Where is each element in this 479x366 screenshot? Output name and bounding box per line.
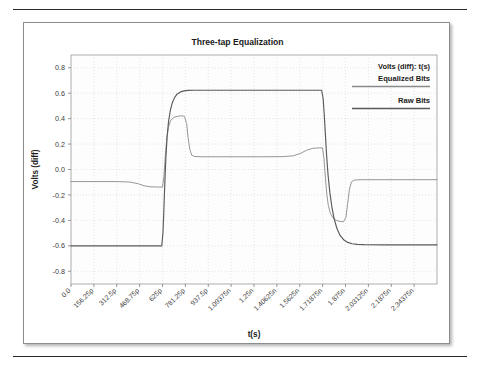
y-tick-label: 0.8 bbox=[55, 63, 65, 72]
x-tick-label: 2.34375n bbox=[390, 287, 415, 312]
x-tick-label: 312.5p bbox=[98, 287, 119, 308]
x-tick-label: 1.875n bbox=[326, 287, 346, 307]
x-tick-label: 0.0 bbox=[60, 287, 72, 299]
x-tick-label: 156.25p bbox=[72, 287, 95, 310]
y-tick-label: 0.2 bbox=[55, 140, 65, 149]
x-tick-label: 2.03125n bbox=[344, 287, 369, 312]
chart-canvas: Three-tap Equalization0.80.60.40.20.0-0.… bbox=[24, 23, 451, 345]
y-tick-label: -0.2 bbox=[53, 191, 65, 200]
y-tick-label: -0.4 bbox=[53, 216, 65, 225]
figure-card: Three-tap Equalization0.80.60.40.20.0-0.… bbox=[23, 22, 450, 344]
top-horizontal-rule bbox=[13, 9, 467, 10]
x-tick-label: 1.5625n bbox=[278, 287, 301, 310]
y-tick-label: -0.8 bbox=[53, 267, 65, 276]
x-tick-label: 2.1875n bbox=[369, 287, 392, 310]
legend-header: Volts (diff): t(s) bbox=[378, 62, 431, 71]
figure-page: Three-tap Equalization0.80.60.40.20.0-0.… bbox=[0, 0, 479, 366]
legend-label-equalized-bits: Equalized Bits bbox=[378, 74, 430, 83]
y-tick-label: 0.4 bbox=[55, 114, 65, 123]
x-tick-label: 625p bbox=[147, 287, 164, 304]
legend-label-raw-bits: Raw Bits bbox=[398, 96, 430, 105]
x-tick-label: 781.25p bbox=[164, 287, 187, 310]
y-tick-label: 0.0 bbox=[55, 165, 65, 174]
x-axis-title: t(s) bbox=[248, 330, 261, 339]
y-axis-title: Volts (diff) bbox=[31, 149, 40, 189]
x-tick-label: 937.5p bbox=[189, 287, 210, 308]
x-tick-label: 1.71875n bbox=[298, 287, 323, 312]
x-tick-label: 1.09375n bbox=[207, 287, 232, 312]
x-tick-label: 468.75p bbox=[118, 287, 141, 310]
y-tick-label: -0.6 bbox=[53, 241, 65, 250]
bottom-horizontal-rule bbox=[13, 356, 467, 357]
x-tick-label: 1.40625n bbox=[252, 287, 277, 312]
y-tick-label: 0.6 bbox=[55, 89, 65, 98]
x-tick-label: 1.25n bbox=[238, 287, 255, 304]
chart-title: Three-tap Equalization bbox=[191, 37, 283, 47]
